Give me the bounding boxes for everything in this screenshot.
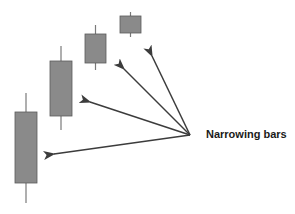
pointer-arrows	[54, 56, 190, 154]
narrowing-bars-label: Narrowing bars	[206, 128, 287, 140]
candle-body-2	[50, 61, 72, 116]
candlesticks	[15, 12, 141, 203]
candle-body-4	[120, 16, 141, 33]
candle-body-1	[15, 112, 37, 183]
candlestick-illustration	[0, 0, 295, 214]
arrow-1	[54, 135, 190, 154]
narrowing-bars-diagram: Narrowing bars	[0, 0, 295, 214]
arrow-4	[152, 56, 190, 135]
arrow-3	[124, 69, 190, 135]
candle-body-3	[85, 34, 106, 63]
arrow-2	[90, 102, 190, 135]
